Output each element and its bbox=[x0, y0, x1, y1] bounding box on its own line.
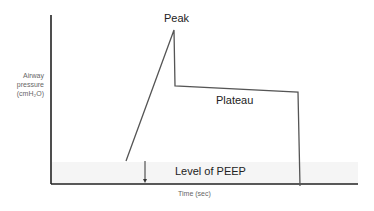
pressure-waveform-diagram bbox=[0, 0, 374, 211]
x-axis-label: Time (sec) bbox=[178, 190, 211, 197]
peep-label: Level of PEEP bbox=[175, 165, 246, 177]
plateau-label: Plateau bbox=[216, 94, 253, 106]
y-axis-label: Airway pressure (cmH₂O) bbox=[0, 71, 44, 98]
peak-label: Peak bbox=[164, 12, 189, 24]
